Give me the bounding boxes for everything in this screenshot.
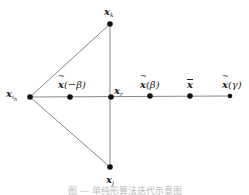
node-label-x_r: xr bbox=[114, 86, 123, 97]
node-label-xt_beta: x(β) bbox=[140, 80, 160, 90]
diagram-canvas bbox=[0, 0, 249, 195]
node-x_r bbox=[108, 94, 114, 100]
node-xt_gamma bbox=[228, 94, 233, 99]
node-x_bar bbox=[187, 93, 193, 99]
edge-x_ih-xt_gamma bbox=[30, 96, 230, 97]
node-label-x_k: xk bbox=[104, 7, 114, 18]
node-label-xt_neg_beta: x(−β) bbox=[58, 80, 86, 90]
node-x_ih bbox=[27, 94, 33, 100]
node-xt_neg_beta bbox=[67, 94, 73, 100]
edges-group bbox=[30, 24, 230, 167]
node-label-x_ih: xih bbox=[6, 89, 17, 102]
nodes-group bbox=[27, 21, 232, 170]
node-x_j bbox=[107, 164, 113, 170]
figure-caption: 图 — 单纯形算法迭代示意图 bbox=[40, 187, 210, 195]
edge-x_ih-x_j bbox=[30, 97, 110, 167]
node-label-x_bar: x bbox=[187, 80, 193, 90]
node-xt_beta bbox=[147, 93, 153, 99]
node-label-xt_gamma: x(γ) bbox=[222, 80, 242, 90]
node-x_k bbox=[107, 21, 113, 27]
node-label-x_j: xj bbox=[106, 175, 114, 186]
